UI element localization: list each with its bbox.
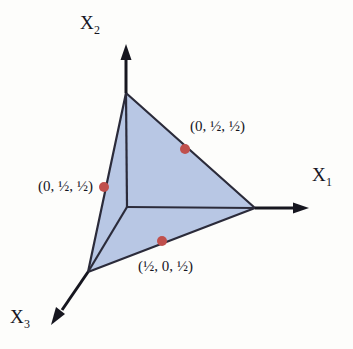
simplex-diagram xyxy=(0,0,353,349)
axis-label-x3-base: X xyxy=(10,306,24,327)
x1-axis-arrowhead xyxy=(293,203,309,214)
axis-label-x2-subscript: 2 xyxy=(94,23,100,37)
axis-label-x1-subscript: 1 xyxy=(326,175,332,189)
axis-label-x2: X2 xyxy=(80,12,100,38)
origin-to-x2-edge xyxy=(126,93,127,207)
point-label-bottom: (½, 0, ½) xyxy=(138,258,193,275)
axis-label-x3: X3 xyxy=(10,306,30,332)
x2-axis-arrowhead xyxy=(121,44,132,60)
axis-label-x1-base: X xyxy=(312,164,326,185)
axis-label-x1: X1 xyxy=(312,164,332,190)
point-marker-p1 xyxy=(180,144,190,154)
point-label-left: (0, ½, ½) xyxy=(38,178,93,195)
axis-label-x2-base: X xyxy=(80,12,94,33)
point-marker-p3 xyxy=(157,236,167,246)
axis-label-x3-subscript: 3 xyxy=(24,317,30,331)
point-label-upper-right: (0, ½, ½) xyxy=(190,118,245,135)
origin-to-x1-edge xyxy=(127,207,255,208)
point-marker-p2 xyxy=(99,182,109,192)
x3-axis-line xyxy=(62,272,88,310)
